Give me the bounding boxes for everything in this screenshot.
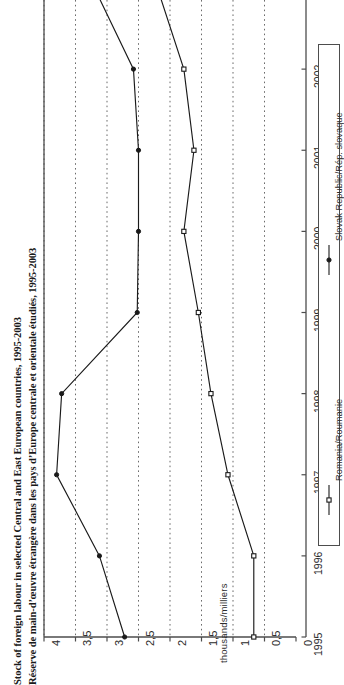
legend-sample-line <box>321 245 337 275</box>
data-point-marker-romania <box>226 473 230 477</box>
data-point-marker-slovak <box>131 67 135 71</box>
data-point-marker-slovak <box>55 473 59 477</box>
data-point-marker-romania <box>182 67 186 71</box>
value-tick-label: 3,5 <box>81 631 93 646</box>
data-point-marker-romania <box>192 148 196 152</box>
value-tick-label: 2,5 <box>144 631 156 646</box>
legend-marker-slovak <box>327 258 331 262</box>
data-point-marker-romania <box>196 310 200 314</box>
series-line-slovak <box>57 0 139 637</box>
legend-marker-romania <box>327 498 331 502</box>
data-point-marker-slovak <box>136 148 140 152</box>
data-point-marker-slovak <box>135 310 139 314</box>
value-tick-label: 4 <box>50 640 62 646</box>
legend-label-slovak: Slovak Republic/Rép. slovaque <box>334 112 344 241</box>
series-line-romania <box>157 0 253 637</box>
data-point-marker-romania <box>252 635 256 639</box>
value-tick-label: 2 <box>176 640 188 646</box>
data-point-marker-romania <box>182 229 186 233</box>
legend-label-romania: Romania/Roumanie <box>334 399 344 481</box>
data-point-marker-romania <box>209 392 213 396</box>
legend-sample-line <box>321 485 337 515</box>
year-tick-label: 1996 <box>312 552 324 575</box>
data-point-marker-romania <box>252 554 256 558</box>
value-tick-label: 1 <box>239 640 251 646</box>
data-point-marker-slovak <box>60 392 64 396</box>
data-point-marker-slovak <box>136 229 140 233</box>
year-tick-label: 1995 <box>312 633 324 656</box>
value-tick-label: 0,5 <box>270 631 282 646</box>
value-tick-label: 3 <box>113 640 125 646</box>
value-axis-label: thousands/milliers <box>218 583 229 663</box>
data-point-marker-slovak <box>123 635 127 639</box>
data-point-marker-slovak <box>97 554 101 558</box>
